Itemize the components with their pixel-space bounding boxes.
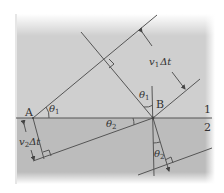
right-fade: [205, 14, 215, 184]
bottom-fade: [15, 172, 215, 184]
refraction-diagram: A B 1 2 θ1 θ1 θ2 θ2 v1Δt v2Δt: [0, 0, 224, 193]
label-a: A: [24, 106, 34, 119]
label-b: B: [156, 98, 164, 111]
left-edge: [15, 14, 17, 184]
label-medium-1: 1: [204, 103, 211, 116]
point-b-dot: [152, 117, 155, 120]
top-fade: [15, 14, 215, 36]
label-medium-2: 2: [204, 121, 211, 134]
